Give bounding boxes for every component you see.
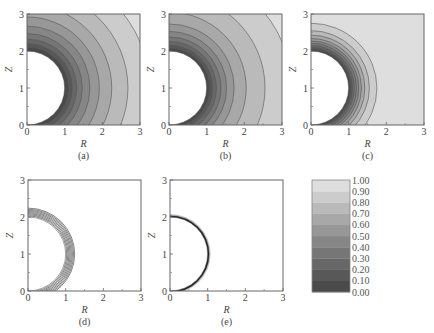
colorbar-band: [312, 281, 350, 293]
y-axis-label: Z: [146, 232, 157, 238]
x-tick-label: 0: [168, 292, 173, 303]
x-axis-label: R: [222, 304, 229, 315]
x-tick-label: 3: [281, 292, 286, 303]
plot-area: [0, 180, 141, 300]
colorbar-band: [312, 258, 350, 270]
y-tick-label: 3: [161, 9, 166, 20]
x-tick-label: 3: [280, 126, 285, 137]
y-tick-label: 3: [303, 9, 308, 20]
y-tick-label: 1: [303, 83, 308, 94]
x-tick-label: 1: [204, 126, 209, 137]
colorbar: 1.000.900.800.700.600.500.400.300.200.10…: [312, 175, 370, 298]
contour-panel-e: 01230123RZ(e): [129, 175, 285, 329]
y-tick-label: 3: [20, 175, 25, 186]
colorbar-tick-label: 0.50: [352, 231, 370, 242]
colorbar-tick-label: 0.90: [352, 186, 370, 197]
x-tick-label: 1: [63, 292, 68, 303]
y-tick-label: 1: [162, 249, 167, 260]
colorbar-band: [312, 270, 350, 282]
colorbar-tick-label: 0.80: [352, 197, 370, 208]
x-tick-label: 2: [101, 292, 106, 303]
y-tick-label: 0: [303, 120, 308, 131]
colorbar-tick-label: 0.60: [352, 219, 370, 230]
colorbar-band: [312, 225, 350, 237]
panel-caption: (a): [78, 150, 89, 162]
x-tick-label: 2: [100, 126, 105, 137]
x-tick-label: 0: [25, 126, 30, 137]
panel-caption: (e): [221, 316, 232, 328]
x-tick-label: 1: [346, 126, 351, 137]
x-tick-label: 0: [167, 126, 172, 137]
figure-canvas: 01230123RZ(a)01230123RZ(b)01230123RZ(c)0…: [0, 0, 434, 333]
colorbar-band: [312, 180, 350, 192]
y-tick-label: 0: [161, 120, 166, 131]
y-tick-label: 3: [19, 9, 24, 20]
x-tick-label: 2: [242, 126, 247, 137]
colorbar-tick-label: 0.10: [352, 275, 370, 286]
colorbar-tick-label: 0.00: [352, 287, 370, 298]
x-axis-label: R: [221, 138, 228, 149]
y-tick-label: 2: [303, 46, 308, 57]
x-axis-label: R: [79, 138, 86, 149]
y-axis-label: Z: [4, 232, 15, 238]
y-tick-label: 2: [161, 46, 166, 57]
colorbar-band: [312, 202, 350, 214]
x-axis-label: R: [80, 304, 87, 315]
x-tick-label: 0: [26, 292, 31, 303]
colorbar-band: [312, 191, 350, 203]
x-tick-label: 3: [138, 126, 143, 137]
panel-caption: (b): [220, 150, 232, 162]
colorbar-tick-label: 1.00: [352, 175, 370, 186]
y-tick-label: 0: [19, 120, 24, 131]
y-axis-label: Z: [287, 66, 298, 72]
colorbar-tick-label: 0.70: [352, 208, 370, 219]
x-tick-label: 1: [62, 126, 67, 137]
x-tick-label: 2: [384, 126, 389, 137]
colorbar-tick-label: 0.30: [352, 253, 370, 264]
x-tick-label: 3: [422, 126, 427, 137]
colorbar-band: [312, 214, 350, 226]
panel-caption: (c): [362, 150, 373, 162]
y-axis-label: Z: [3, 66, 14, 72]
y-tick-label: 2: [19, 46, 24, 57]
colorbar-tick-label: 0.20: [352, 264, 370, 275]
x-tick-label: 0: [309, 126, 314, 137]
y-tick-label: 3: [162, 175, 167, 186]
x-tick-label: 1: [205, 292, 210, 303]
panel-caption: (d): [79, 316, 91, 328]
contour-panel-d: 01230123RZ(d): [0, 175, 144, 329]
x-tick-label: 3: [139, 292, 144, 303]
x-tick-label: 2: [243, 292, 248, 303]
y-tick-label: 2: [162, 212, 167, 223]
y-tick-label: 0: [162, 286, 167, 297]
y-tick-label: 2: [20, 212, 25, 223]
y-tick-label: 1: [19, 83, 24, 94]
x-axis-label: R: [363, 138, 370, 149]
y-axis-label: Z: [145, 66, 156, 72]
y-tick-label: 1: [20, 249, 25, 260]
colorbar-band: [312, 236, 350, 248]
y-tick-label: 1: [161, 83, 166, 94]
colorbar-tick-label: 0.40: [352, 242, 370, 253]
colorbar-band: [312, 247, 350, 259]
y-tick-label: 0: [20, 286, 25, 297]
